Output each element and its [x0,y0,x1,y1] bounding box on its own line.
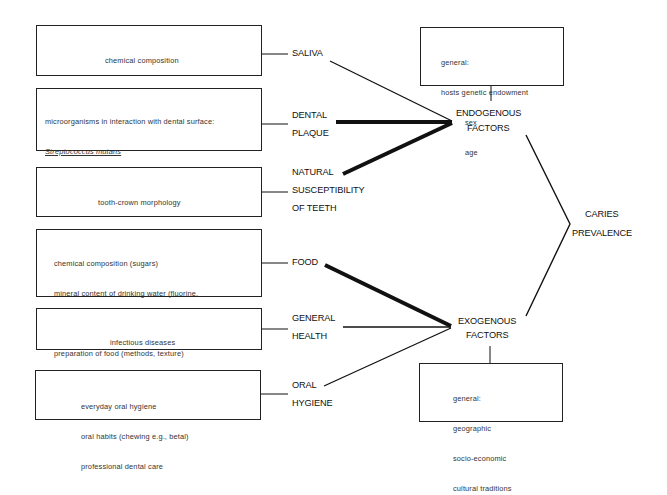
dental-plaque-detail-box: microorganisms in interaction with denta… [36,88,262,151]
health-detail-0: infectious diseases [110,338,177,348]
label-oral: ORAL [292,380,317,390]
exogenous-general-box: general: geographic socio-economic cultu… [419,363,563,422]
oral-detail-1: oral habits (chewing e.g., betal) [81,432,189,442]
endogenous-general-box: general: hosts genetic endowment sex age [420,27,564,86]
line-susceptibility-to-endogenous [343,123,452,174]
label-endogenous-factors: FACTORS [467,123,510,133]
susceptibility-detail-0: tooth-crown morphology [98,198,181,208]
plaque-detail-1: Streptococcus mutans [45,147,214,157]
label-food: FOOD [292,257,318,267]
general-health-detail-box: infectious diseases metabolic disorders [36,308,262,350]
food-detail-0: chemical composition (sugars) [54,259,224,269]
exogenous-detail-2: socio-economic [453,454,512,464]
natural-susceptibility-detail-box: tooth-crown morphology enamel integrity … [36,167,262,217]
saliva-detail-box: chemical composition flow rate buffering… [36,25,262,76]
endogenous-detail-3: age [441,148,528,158]
oral-detail-0: everyday oral hygiene [81,402,189,412]
endogenous-detail-1: hosts genetic endowment [441,88,528,98]
label-of-teeth: OF TEETH [292,203,336,213]
food-detail-box: chemical composition (sugars) mineral co… [36,229,262,297]
saliva-detail-0: chemical composition [105,56,179,66]
oral-detail-2: professional dental care [81,462,189,472]
exogenous-detail-1: geographic [453,424,512,434]
line-food-to-exogenous [325,265,451,326]
label-hygiene: HYGIENE [292,398,333,408]
label-exogenous: EXOGENOUS [458,316,516,326]
plaque-detail-0: microorganisms in interaction with denta… [45,117,214,127]
exogenous-detail-3: cultural traditions [453,484,512,494]
label-plaque: PLAQUE [292,128,329,138]
label-exogenous-factors: FACTORS [466,330,509,340]
endogenous-detail-0: general: [441,58,528,68]
label-natural: NATURAL [292,167,334,177]
line-factors-to-caries [526,135,570,316]
label-dental: DENTAL [292,110,327,120]
exogenous-detail-0: general: [453,394,512,404]
label-endogenous: ENDOGENOUS [456,108,521,118]
label-general: GENERAL [292,313,335,323]
label-susceptibility: SUSCEPTIBILITY [292,185,365,195]
label-caries: CARIES [585,209,619,219]
label-saliva: SALIVA [292,48,323,58]
oral-hygiene-detail-box: everyday oral hygiene oral habits (chewi… [35,370,261,420]
label-prevalence: PREVALENCE [572,228,632,238]
food-detail-1: mineral content of drinking water (fluor… [54,289,224,299]
label-health: HEALTH [292,331,327,341]
